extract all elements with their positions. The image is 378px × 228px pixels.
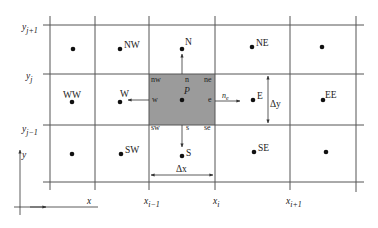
node-dot-n [180, 47, 185, 52]
face-label-s: s [186, 123, 189, 132]
node-dot [71, 47, 76, 52]
face-label-n: n [185, 75, 189, 84]
node-label-ne: NE [256, 38, 269, 48]
node-label-nw: NW [124, 40, 140, 50]
row-label-y-j-minus-1: yj−1 [21, 124, 38, 137]
node-label-s: S [186, 148, 191, 158]
dy-label: Δy [270, 99, 281, 109]
face-label-se: se [204, 123, 211, 132]
row-label-y-j: yj [25, 71, 33, 84]
dx-label: Δx [176, 164, 187, 174]
node-dot-s [180, 154, 185, 159]
node-dot-se [252, 150, 257, 155]
node-dot-p [180, 98, 185, 103]
node-dot-e [251, 98, 256, 103]
node-dot-ww [70, 100, 75, 105]
face-label-ne: ne [204, 75, 212, 84]
node-dot [324, 150, 329, 155]
node-dot-w [118, 100, 123, 105]
face-label-w: w [152, 95, 158, 104]
node-label-sw: SW [125, 145, 139, 155]
node-label-ee: EE [325, 90, 337, 100]
fvm-grid-diagram: yj+1 yj yj−1 xi−1 xi xi+1 NW N NE WW W P… [0, 0, 378, 228]
face-label-e: e [208, 95, 212, 104]
y-axis-label: y [21, 150, 27, 160]
node-label-e: E [257, 91, 263, 101]
face-label-sw: sw [151, 123, 160, 132]
col-label-x-i-minus-1: xi−1 [143, 196, 160, 209]
node-label-w: W [120, 89, 129, 99]
node-dot-nw [118, 47, 123, 52]
x-axis-label: x [86, 196, 92, 206]
node-label-se: SE [258, 143, 269, 153]
node-label-p: P [183, 86, 190, 96]
node-dot [70, 152, 75, 157]
node-dot [320, 45, 325, 50]
node-label-n: N [185, 37, 192, 47]
normal-vector-label: ne [222, 91, 229, 101]
node-label-ww: WW [63, 90, 81, 100]
face-label-nw: nw [151, 75, 161, 84]
node-dot-ne [250, 45, 255, 50]
node-dot-sw [119, 152, 124, 157]
col-label-x-i-plus-1: xi+1 [285, 196, 302, 209]
col-label-x-i: xi [212, 196, 219, 209]
row-label-y-j-plus-1: yj+1 [21, 22, 38, 35]
